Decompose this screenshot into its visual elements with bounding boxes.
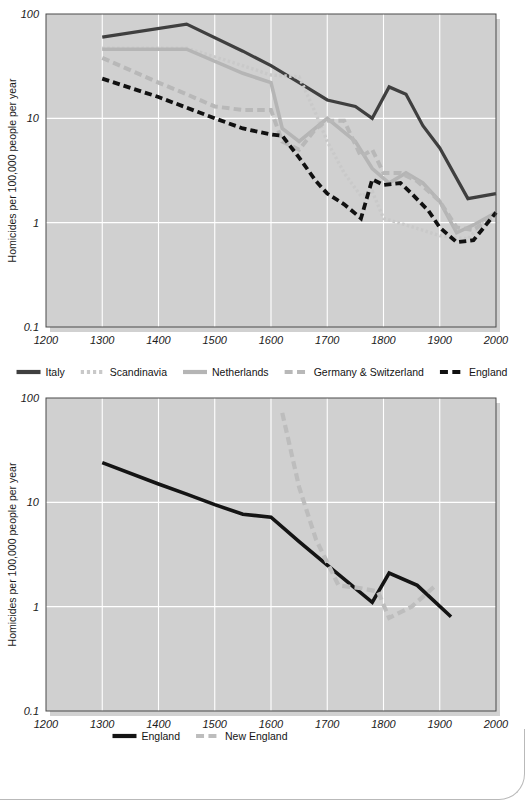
legend-label-netherlands: Netherlands bbox=[212, 366, 269, 378]
y-tick-label: 100 bbox=[21, 392, 40, 404]
x-tick-label: 2000 bbox=[483, 718, 509, 730]
x-tick-label: 1900 bbox=[428, 718, 453, 730]
legend-label-italy: Italy bbox=[46, 366, 66, 378]
x-tick-label: 1700 bbox=[315, 334, 340, 346]
x-tick-label: 1800 bbox=[371, 334, 396, 346]
x-tick-label: 1600 bbox=[259, 334, 284, 346]
x-tick-label: 1500 bbox=[203, 718, 228, 730]
x-tick-label: 1200 bbox=[34, 718, 59, 730]
x-tick-label: 1800 bbox=[371, 718, 396, 730]
y-tick-label: 10 bbox=[27, 496, 40, 508]
y-tick-label: 1 bbox=[33, 217, 39, 229]
x-tick-label: 1500 bbox=[203, 334, 228, 346]
x-tick-label: 1400 bbox=[146, 334, 171, 346]
x-tick-label: 1400 bbox=[146, 718, 171, 730]
legend-label-england: England bbox=[469, 366, 508, 378]
y-tick-label: 0.1 bbox=[24, 705, 39, 717]
y-tick-label: 10 bbox=[27, 112, 40, 124]
y-axis-label: Homicides per 100,000 people per year bbox=[6, 462, 18, 646]
legend-label-new-england: New England bbox=[225, 730, 288, 742]
y-axis-label: Homicides per 100,000 people per year bbox=[6, 78, 18, 262]
legend-label-england: England bbox=[141, 730, 180, 742]
chart-top-container: 1001010.1Homicides per 100,000 people pe… bbox=[0, 0, 519, 382]
x-tick-label: 1200 bbox=[34, 334, 59, 346]
x-tick-label: 1900 bbox=[428, 334, 453, 346]
x-tick-label: 1300 bbox=[90, 718, 115, 730]
x-tick-label: 1600 bbox=[259, 718, 284, 730]
y-tick-label: 100 bbox=[21, 8, 40, 20]
chart-top-svg: 1001010.1Homicides per 100,000 people pe… bbox=[0, 0, 519, 382]
y-tick-label: 0.1 bbox=[24, 321, 39, 333]
legend-label-germany-switzerland: Germany & Switzerland bbox=[314, 366, 424, 378]
legend-label-scandinavia: Scandinavia bbox=[110, 366, 167, 378]
x-tick-label: 2000 bbox=[483, 334, 509, 346]
chart-bottom-svg: 1001010.1Homicides per 100,000 people pe… bbox=[0, 384, 519, 744]
y-tick-label: 1 bbox=[33, 601, 39, 613]
x-tick-label: 1700 bbox=[315, 718, 340, 730]
x-tick-label: 1300 bbox=[90, 334, 115, 346]
chart-bottom-container: 1001010.1Homicides per 100,000 people pe… bbox=[0, 384, 519, 744]
